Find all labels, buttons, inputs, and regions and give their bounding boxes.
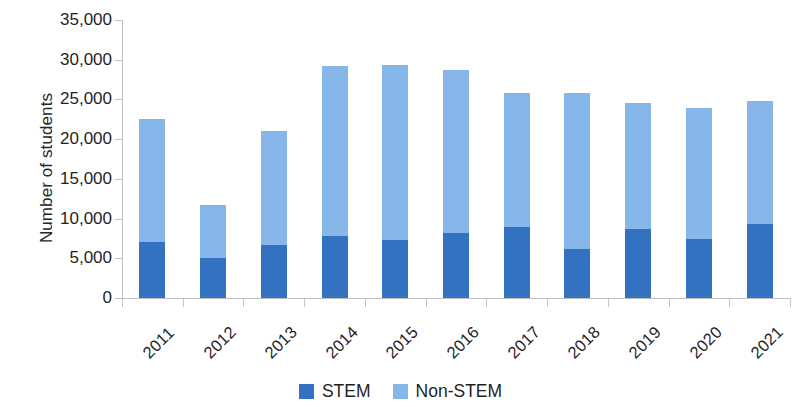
legend-item-stem[interactable]: STEM — [299, 383, 371, 401]
x-axis-label-2016: 2016 — [443, 322, 483, 362]
x-axis-label-2012: 2012 — [200, 322, 240, 362]
x-axis-line — [122, 298, 791, 299]
legend-label: Non-STEM — [416, 383, 503, 401]
bar-segment-non-stem[interactable] — [747, 101, 773, 224]
legend-swatch-icon — [393, 384, 408, 399]
x-axis-label-2011: 2011 — [139, 323, 178, 362]
chart-legend: STEMNon-STEM — [0, 383, 801, 401]
bar-2016[interactable] — [443, 70, 469, 298]
bar-2011[interactable] — [139, 119, 165, 298]
bar-2017[interactable] — [504, 93, 530, 298]
legend-label: STEM — [322, 383, 371, 401]
x-axis-tick — [426, 299, 427, 307]
bar-segment-non-stem[interactable] — [625, 103, 651, 228]
y-axis-tick-label: 0 — [2, 289, 112, 306]
plot-area — [122, 20, 790, 298]
bar-2012[interactable] — [200, 205, 226, 298]
x-axis-tick — [304, 299, 305, 307]
bar-segment-non-stem[interactable] — [139, 119, 165, 242]
stacked-bar-chart: Number of students 05,00010,00015,00020,… — [0, 0, 801, 407]
x-axis-tick — [790, 299, 791, 307]
y-axis-tick-label: 30,000 — [2, 51, 112, 68]
bar-segment-stem[interactable] — [564, 249, 590, 298]
bar-segment-non-stem[interactable] — [200, 205, 226, 257]
y-axis-tick-label: 15,000 — [2, 170, 112, 187]
bar-segment-stem[interactable] — [261, 245, 287, 298]
legend-swatch-icon — [299, 384, 314, 399]
bar-segment-stem[interactable] — [625, 229, 651, 298]
x-axis-tick — [547, 299, 548, 307]
x-axis-label-2020: 2020 — [686, 322, 726, 362]
bar-2015[interactable] — [382, 65, 408, 298]
x-axis-label-2018: 2018 — [564, 322, 604, 362]
x-axis-label-2013: 2013 — [261, 322, 301, 362]
x-axis-label-2021: 2021 — [747, 322, 787, 362]
bar-segment-non-stem[interactable] — [382, 65, 408, 240]
x-axis-label-2014: 2014 — [322, 322, 362, 362]
bar-segment-stem[interactable] — [443, 233, 469, 298]
x-axis-tick — [608, 299, 609, 307]
x-axis-tick — [122, 299, 123, 307]
x-axis-tick — [486, 299, 487, 307]
bar-segment-stem[interactable] — [200, 258, 226, 299]
bar-segment-non-stem[interactable] — [504, 93, 530, 227]
bar-2014[interactable] — [322, 66, 348, 298]
bar-segment-stem[interactable] — [322, 236, 348, 298]
y-axis-tick-label: 35,000 — [2, 11, 112, 28]
x-axis-label-2015: 2015 — [382, 322, 422, 362]
bar-segment-non-stem[interactable] — [322, 66, 348, 236]
x-axis-tick — [669, 299, 670, 307]
bar-2013[interactable] — [261, 131, 287, 298]
bar-segment-stem[interactable] — [382, 240, 408, 298]
legend-item-non-stem[interactable]: Non-STEM — [393, 383, 503, 401]
x-axis-tick — [365, 299, 366, 307]
x-axis-tick — [183, 299, 184, 307]
x-axis-label-2019: 2019 — [625, 322, 665, 362]
y-axis-tick-label: 5,000 — [2, 249, 112, 266]
bar-segment-non-stem[interactable] — [443, 70, 469, 233]
bar-2019[interactable] — [625, 103, 651, 298]
bar-2020[interactable] — [686, 108, 712, 298]
bar-segment-non-stem[interactable] — [564, 93, 590, 249]
bar-segment-non-stem[interactable] — [686, 108, 712, 239]
bar-segment-stem[interactable] — [139, 242, 165, 298]
bar-2018[interactable] — [564, 93, 590, 298]
bar-segment-stem[interactable] — [686, 239, 712, 298]
x-axis-tick — [729, 299, 730, 307]
bar-segment-stem[interactable] — [504, 227, 530, 298]
y-axis-tick-label: 25,000 — [2, 90, 112, 107]
x-axis-label-2017: 2017 — [504, 322, 544, 362]
x-axis-tick — [243, 299, 244, 307]
y-axis-tick-label: 10,000 — [2, 210, 112, 227]
y-axis-tick-label: 20,000 — [2, 130, 112, 147]
bar-2021[interactable] — [747, 101, 773, 298]
bar-segment-non-stem[interactable] — [261, 131, 287, 245]
bar-segment-stem[interactable] — [747, 224, 773, 298]
